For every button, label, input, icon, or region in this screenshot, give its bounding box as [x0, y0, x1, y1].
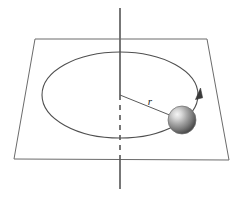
- figure-canvas: r: [0, 0, 239, 204]
- ball-sphere: [168, 106, 196, 134]
- radius-label: r: [148, 95, 153, 107]
- physics-figure: r: [0, 0, 239, 204]
- direction-of-motion-arrow-icon: [196, 88, 203, 100]
